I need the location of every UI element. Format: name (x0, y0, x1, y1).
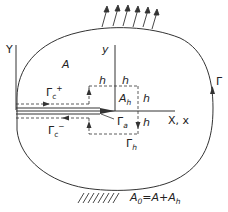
label-crack-tip-contour: Γa (117, 115, 128, 130)
label-region-ah: Ah (118, 92, 132, 107)
label-box-contour: Γh (126, 137, 137, 152)
label-crack-lower-face: Γc− (48, 122, 65, 139)
label-h-right-upper: h (143, 92, 150, 105)
label-region-a: A (61, 58, 70, 71)
diagram-canvas: Y y A Γ h h h h Ah X, x Γc+ Γc− Γa Γh A0… (0, 0, 228, 212)
gamma-direction-arrow (210, 86, 215, 94)
box-contour-gamma-h (89, 86, 138, 134)
label-h-top-left: h (99, 74, 106, 87)
label-area-relation: A0=A+Ah (129, 191, 181, 206)
label-crack-upper-face: Γc+ (46, 84, 63, 101)
label-x-axis: X, x (168, 114, 190, 127)
label-local-y: y (101, 43, 109, 56)
domain-diagram: Y y A Γ h h h h Ah X, x Γc+ Γc− Γa Γh A0… (0, 0, 228, 212)
label-global-y: Y (5, 43, 13, 56)
label-h-right-lower: h (143, 116, 150, 129)
arrow-gamma-c-minus (62, 116, 69, 121)
arrow-box-left-up (87, 88, 92, 95)
label-h-top-right: h (122, 74, 129, 87)
arrow-box-right-down (136, 122, 141, 129)
arrow-box-left-up-lower (87, 121, 92, 128)
traction-arrows (102, 5, 159, 29)
label-outer-contour: Γ (216, 75, 223, 88)
fixed-support-hatching (78, 193, 119, 203)
gamma-a-leader (101, 114, 114, 119)
arrow-gamma-c-plus (43, 102, 50, 107)
